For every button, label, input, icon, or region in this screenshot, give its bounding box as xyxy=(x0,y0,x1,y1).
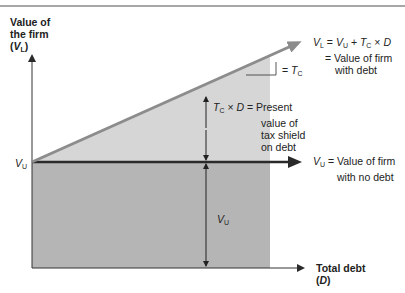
vu-region-label: VU xyxy=(217,213,229,229)
slope-label: = TC xyxy=(282,64,303,80)
x-axis-symbol: (D) xyxy=(316,274,365,286)
y-axis-label-line1: Value of xyxy=(10,16,50,28)
intercept-label: VU xyxy=(15,157,27,173)
x-axis-label-line1: Total debt xyxy=(316,262,365,274)
levered-desc-line1: = Value of firm xyxy=(313,52,392,64)
y-axis-symbol: (VL) xyxy=(10,40,50,56)
levered-desc-line2: with debt xyxy=(313,64,392,76)
levered-line-label: VL = VU + TC × D = Value of firm with de… xyxy=(313,36,392,76)
tax-shield-line3: tax shield xyxy=(213,129,305,141)
unlevered-label-line1: VU = Value of firm xyxy=(313,155,395,171)
x-axis-label: Total debt (D) xyxy=(316,262,365,286)
levered-equation: VL = VU + TC × D xyxy=(313,36,392,52)
unlevered-label-line2: with no debt xyxy=(313,171,395,183)
y-axis-label-line2: the firm xyxy=(10,28,50,40)
y-axis-label: Value of the firm (VL) xyxy=(10,16,50,56)
tax-shield-label: TC × D = Present value of tax shield on … xyxy=(213,101,305,153)
unlevered-value-region xyxy=(32,162,270,268)
unlevered-line-label: VU = Value of firm with no debt xyxy=(313,155,395,183)
tax-shield-line2: value of xyxy=(213,117,305,129)
tax-shield-equation: TC × D = Present xyxy=(213,101,305,117)
tax-shield-line4: on debt xyxy=(213,141,305,153)
